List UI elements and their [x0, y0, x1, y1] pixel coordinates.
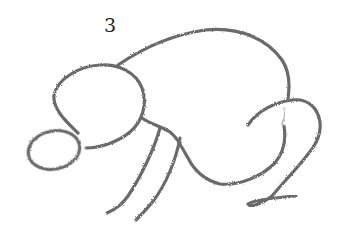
hind-foot: [248, 196, 296, 206]
body-back-curve: [118, 29, 289, 98]
hip-mark: [282, 108, 285, 124]
belly-line: [142, 118, 285, 184]
head-circle: [54, 65, 145, 148]
front-leg-right: [136, 138, 180, 220]
rabbit-sketch: [0, 0, 349, 231]
nose-oval: [25, 126, 84, 174]
